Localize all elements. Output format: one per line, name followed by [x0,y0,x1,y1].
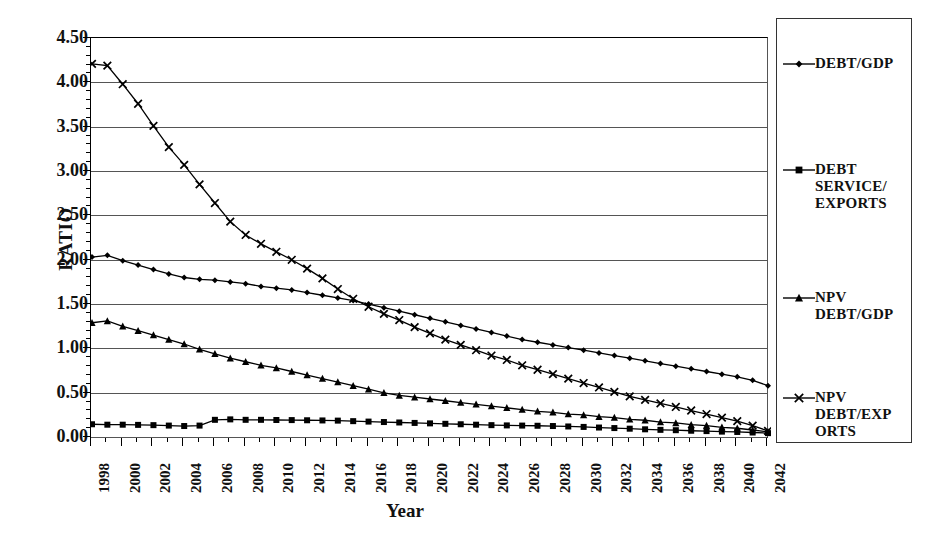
y-axis-tick-mark [83,37,90,38]
x-axis-tick-label: 2020 [434,463,451,493]
y-axis-tick-mark [83,347,90,348]
x-axis-minor-tick [566,438,567,442]
x-axis-tick-label: 2032 [618,463,635,493]
chart-figure: RATIO 4.504.003.503.002.502.001.501.000.… [0,0,926,539]
x-axis-minor-tick [689,438,690,442]
x-axis-tick-label: 2014 [342,463,359,493]
x-axis-tick-mark [735,438,736,446]
x-axis-tick-label: 2024 [495,463,512,493]
x-axis-tick-mark [582,438,583,446]
x-axis-tick-label: 2004 [188,463,205,493]
x-axis-tick-mark [121,438,122,446]
x-axis-tick-mark [551,438,552,446]
y-axis-tick-mark [83,303,90,304]
legend-square-marker-icon [783,162,815,178]
legend: DEBT/GDPDEBT SERVICE/ EXPORTSNPV DEBT/GD… [776,18,912,443]
x-axis-minor-tick [228,438,229,442]
x-axis-tick-mark [151,438,152,446]
y-axis-tick-mark [83,81,90,82]
series-line [92,321,768,432]
y-axis-tick-label: 0.00 [26,427,88,445]
x-axis-tick-mark [274,438,275,446]
y-axis-tick-label: 1.50 [26,294,88,312]
series-line [92,64,768,431]
x-axis-minor-tick [443,438,444,442]
legend-cross-marker-icon [783,390,815,406]
x-axis-tick-mark [90,438,91,446]
x-axis-minor-tick [259,438,260,442]
x-axis-tick-label: 2010 [280,463,297,493]
x-axis-minor-tick [720,438,721,442]
y-axis-tick-label: 3.50 [26,117,88,135]
x-axis-minor-tick [505,438,506,442]
x-axis-minor-tick [198,438,199,442]
x-axis-minor-tick [658,438,659,442]
x-axis-minor-tick [136,438,137,442]
x-axis-tick-mark [459,438,460,446]
x-axis-minor-tick [474,438,475,442]
x-axis-tick-label: 2036 [680,463,697,493]
x-axis-tick-label: 2028 [557,463,574,493]
legend-item[interactable]: DEBT/GDP [783,55,909,72]
x-axis-tick-mark [397,438,398,446]
x-axis-tick-label: 1998 [96,463,113,493]
y-axis-tick-label: 0.50 [26,383,88,401]
y-axis-tick-mark [83,392,90,393]
x-axis-tick-mark [336,438,337,446]
x-axis-minor-tick [382,438,383,442]
y-axis-tick-label: 2.00 [26,250,88,268]
x-axis-title: Year [330,500,480,522]
x-axis-tick-mark [643,438,644,446]
x-axis-tick-mark [244,438,245,446]
y-axis-tick-mark [83,170,90,171]
x-axis-tick-label: 2040 [741,463,758,493]
x-axis-tick-mark [612,438,613,446]
x-axis-minor-tick [628,438,629,442]
x-axis-tick-mark [213,438,214,446]
x-axis-tick-label: 2002 [157,463,174,493]
x-axis-tick-mark [705,438,706,446]
legend-item[interactable]: NPV DEBT/EXP ORTS [783,389,909,440]
x-axis-tick-label: 2008 [250,463,267,493]
x-axis-tick-label: 2034 [649,463,666,493]
x-axis-tick-mark [489,438,490,446]
x-axis-minor-tick [105,438,106,442]
y-axis-tick-mark [83,126,90,127]
x-axis-tick-mark [428,438,429,446]
x-axis-minor-tick [167,438,168,442]
x-axis-tick-mark [520,438,521,446]
x-axis-tick-label: 2016 [373,463,390,493]
x-axis-tick-label: 2038 [711,463,728,493]
x-axis-tick-labels: 1998200020022004200620082010201220142016… [90,447,768,499]
x-axis-tick-mark [182,438,183,446]
legend-item[interactable]: DEBT SERVICE/ EXPORTS [783,161,909,212]
y-axis-tick-label: 2.50 [26,205,88,223]
legend-item-label: NPV DEBT/GDP [815,289,893,323]
x-axis-tick-mark [674,438,675,446]
legend-item-label: DEBT/GDP [815,55,893,72]
x-axis-minor-tick [413,438,414,442]
y-axis-tick-labels: 4.504.003.503.002.502.001.501.000.500.00 [14,0,88,539]
legend-item-label: NPV DEBT/EXP ORTS [815,389,892,440]
x-axis-tick-marks [90,438,768,447]
legend-diamond-marker-icon [783,56,815,72]
y-axis-tick-mark [83,436,90,437]
plot-area [90,37,768,438]
y-axis-tick-marks [82,37,90,438]
x-axis-minor-tick [320,438,321,442]
x-axis-tick-mark [766,438,767,446]
x-axis-minor-tick [290,438,291,442]
x-axis-tick-label: 2026 [526,463,543,493]
x-axis-tick-label: 2022 [465,463,482,493]
x-axis-tick-label: 2042 [772,463,789,493]
x-axis-tick-label: 2000 [127,463,144,493]
legend-item[interactable]: NPV DEBT/GDP [783,289,909,323]
x-axis-tick-label: 2030 [588,463,605,493]
x-axis-minor-tick [597,438,598,442]
y-axis-tick-mark [83,259,90,260]
series-lines [91,38,771,441]
y-axis-tick-label: 3.00 [26,161,88,179]
x-axis-minor-tick [351,438,352,442]
x-axis-tick-label: 2012 [311,463,328,493]
x-axis-minor-tick [536,438,537,442]
